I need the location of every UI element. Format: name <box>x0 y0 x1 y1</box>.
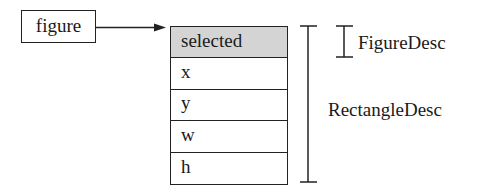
field-row-x: x <box>171 58 287 89</box>
record-table: selected x y w h <box>170 26 288 185</box>
figure-desc-bracket <box>336 26 353 57</box>
field-row-selected: selected <box>171 27 287 58</box>
field-label: h <box>181 156 191 178</box>
field-row-w: w <box>171 121 287 152</box>
pointer-arrow <box>96 24 166 32</box>
figure-desc-label: FigureDesc <box>358 33 446 52</box>
field-label: selected <box>181 30 242 52</box>
field-row-h: h <box>171 153 287 184</box>
field-label: x <box>181 61 191 83</box>
rectangle-desc-label: RectangleDesc <box>328 100 442 119</box>
field-row-y: y <box>171 90 287 121</box>
field-label: y <box>181 92 191 114</box>
rectangle-desc-bracket <box>300 26 317 182</box>
field-label: w <box>181 124 195 146</box>
